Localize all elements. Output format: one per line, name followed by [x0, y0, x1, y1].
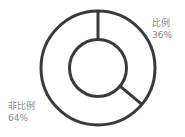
slice-label-nonratio-name: 非比例 [8, 100, 35, 112]
slice-label-nonratio: 非比例 64% [8, 100, 35, 124]
slice-divider-end [120, 86, 142, 104]
slice-label-ratio-name: 比例 [152, 17, 172, 29]
slice-label-ratio: 比例 36% [152, 17, 172, 41]
inner-ring [70, 40, 127, 97]
slice-label-nonratio-value: 64% [8, 112, 35, 124]
slice-label-ratio-value: 36% [152, 29, 172, 41]
